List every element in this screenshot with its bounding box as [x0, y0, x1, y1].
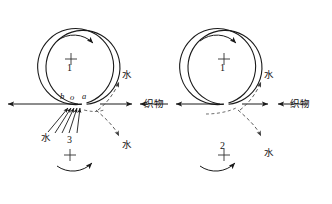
nip-diagram-svg — [0, 0, 332, 204]
left-nip-diagram — [8, 27, 168, 171]
figure-root: 1 3 b o a 水 水 水 织物 1 2 水 水 织物 — [0, 0, 332, 204]
left-nip-dashed-stub — [84, 110, 104, 112]
right-top-roller-crosshair — [218, 53, 230, 65]
left-bottom-roller-rotation-arrow — [57, 163, 92, 171]
right-bottom-roller-circle — [185, 28, 264, 107]
right-bottom-roller-crosshair — [218, 149, 230, 161]
right-water-flow-down-dashed — [238, 110, 261, 136]
left-water-flow-down-dashed — [96, 110, 119, 136]
left-top-roller-circle — [36, 27, 116, 107]
right-bottom-roller-rotation-arrow — [200, 163, 235, 171]
left-bottom-roller-crosshair — [64, 149, 76, 161]
right-top-roller-circle — [178, 27, 258, 107]
right-nip-diagram — [176, 27, 308, 171]
right-nip-dashed-stub — [206, 108, 236, 114]
left-bottom-roller-circle — [43, 28, 122, 107]
left-squeeze-arrows — [48, 108, 80, 133]
left-top-roller-crosshair — [65, 53, 77, 65]
